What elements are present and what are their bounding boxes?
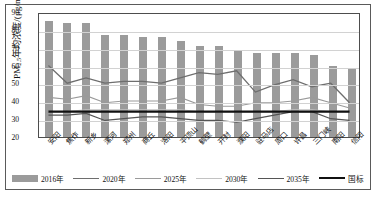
legend-swatch-line bbox=[319, 177, 345, 179]
legend-swatch-line bbox=[196, 178, 222, 179]
y-axis-tick-label: 30 bbox=[0, 116, 19, 124]
gridline bbox=[39, 85, 359, 86]
legend-item[interactable]: 国标 bbox=[319, 173, 364, 184]
legend-item[interactable]: 2016年 bbox=[12, 173, 64, 184]
legend-swatch-line bbox=[135, 178, 161, 179]
y-axis-tick-label: 20 bbox=[0, 134, 19, 142]
gridline bbox=[39, 68, 359, 69]
y-axis-tick-label: 80 bbox=[0, 27, 19, 35]
y-axis-tick-label: 50 bbox=[0, 80, 19, 88]
legend-item[interactable]: 2035年 bbox=[258, 173, 310, 184]
gridline bbox=[39, 103, 359, 104]
legend-label: 2020年 bbox=[102, 173, 125, 184]
figure-root: PM2.5年均浓度/(μg/m³) 2030405060708090 安阳焦作新… bbox=[0, 0, 376, 199]
legend-label: 国标 bbox=[348, 173, 364, 184]
legend-item[interactable]: 2025年 bbox=[135, 173, 187, 184]
legend-label: 2035年 bbox=[287, 173, 310, 184]
legend-label: 2025年 bbox=[164, 173, 187, 184]
legend-swatch-line bbox=[258, 178, 284, 179]
legend-label: 2016年 bbox=[41, 173, 64, 184]
y-axis-tick-label: 60 bbox=[0, 63, 19, 71]
line-2020年 bbox=[48, 65, 349, 102]
x-axis-tick-labels: 安阳焦作新乡漯河郑州商丘洛阳平顶山鹤壁开封濮阳驻马店周口许昌三门峡南阳信阳 bbox=[38, 139, 360, 173]
legend-swatch-bar bbox=[12, 175, 38, 182]
gridline bbox=[39, 121, 359, 122]
chart-legend: 2016年2020年2025年2030年2035年国标 bbox=[8, 170, 368, 186]
legend-label: 2030年 bbox=[225, 173, 248, 184]
legend-swatch-line bbox=[73, 178, 99, 179]
legend-item[interactable]: 2020年 bbox=[73, 173, 125, 184]
plot-area bbox=[38, 13, 360, 138]
plot-area-wrapper: 2030405060708090 bbox=[38, 13, 360, 138]
y-axis-tick-label: 90 bbox=[0, 9, 19, 17]
y-axis-tick-label: 40 bbox=[0, 98, 19, 106]
line-2025年 bbox=[48, 96, 349, 108]
gridline bbox=[39, 32, 359, 33]
legend-item[interactable]: 2030年 bbox=[196, 173, 248, 184]
gridline bbox=[39, 50, 359, 51]
y-axis-tick-label: 70 bbox=[0, 45, 19, 53]
